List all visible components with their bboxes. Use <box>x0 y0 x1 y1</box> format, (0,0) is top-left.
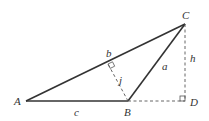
vertex-label-b: B <box>124 106 131 118</box>
side-label-b: b <box>106 47 112 59</box>
vertex-label-d: D <box>189 96 198 108</box>
triangle-diagram: A B C D a b c h j <box>0 0 209 121</box>
altitude-j <box>108 64 128 101</box>
height-label-h: h <box>190 52 196 64</box>
vertex-label-a: A <box>13 95 21 107</box>
right-angle-marker-d <box>180 96 185 101</box>
vertex-label-c: C <box>182 9 190 21</box>
side-label-c: c <box>74 106 79 118</box>
height-label-j: j <box>117 74 122 86</box>
side-label-a: a <box>162 60 168 72</box>
side-a <box>128 24 185 101</box>
